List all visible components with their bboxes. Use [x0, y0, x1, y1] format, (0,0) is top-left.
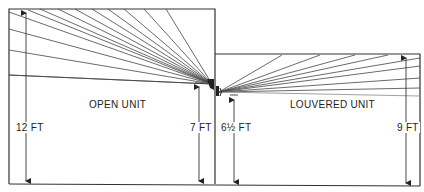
- louvered-room-walls: [215, 54, 420, 186]
- dim-12ft-label: 12 FT: [15, 122, 45, 133]
- open-unit-label: OPEN UNIT: [88, 99, 147, 110]
- room-outlines: [9, 9, 420, 186]
- dim-9ft-label: 9 FT: [396, 122, 420, 133]
- diagram-lines: [0, 0, 424, 192]
- louvered-unit-block: [216, 86, 219, 96]
- open-unit-air-pattern: [9, 9, 212, 84]
- airflow-diagram: OPEN UNIT LOUVERED UNIT 12 FT 7 FT 6½ FT…: [0, 0, 424, 192]
- louvered-unit-label: LOUVERED UNIT: [289, 99, 376, 110]
- dim-7ft-label: 7 FT: [189, 122, 213, 133]
- dim-6-5ft-label: 6½ FT: [220, 122, 252, 133]
- floor-line: [9, 184, 420, 186]
- open-unit-block: [207, 79, 214, 90]
- louvered-unit-air-pattern: [219, 55, 420, 96]
